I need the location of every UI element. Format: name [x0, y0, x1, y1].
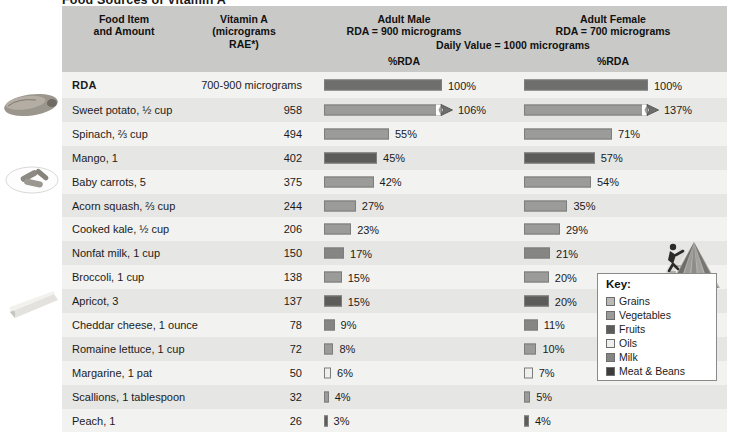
legend-item: Oils	[606, 337, 637, 349]
male-pct-rda-bar	[324, 80, 442, 91]
female-pct-rda-label: 29%	[566, 223, 588, 235]
male-bar-group: 42%	[324, 176, 514, 187]
male-pct-rda-bar	[324, 224, 351, 235]
female-pct-rda-label: 20%	[555, 295, 577, 307]
female-over-scale-arrow-icon	[642, 103, 660, 116]
vitamin-a-amount: 150	[186, 247, 302, 259]
female-pct-rda-label: 20%	[555, 271, 577, 283]
column-header-pct-rda-male: %RDA	[306, 55, 502, 67]
male-bar-group: 3%	[324, 415, 514, 426]
female-bar-group: 57%	[524, 152, 724, 163]
male-pct-rda-bar	[324, 272, 342, 283]
male-bar-group: 15%	[324, 296, 514, 307]
male-pct-rda-bar	[324, 391, 329, 402]
female-bar-group: 29%	[524, 224, 724, 235]
column-header-food-item: Food Item and Amount	[64, 13, 184, 38]
male-pct-rda-label: 17%	[350, 247, 372, 259]
table-row: Mango, 140245%57%	[62, 146, 727, 170]
female-pct-rda-bar	[524, 104, 648, 115]
table-row: Sweet potato, ½ cup958106%137%	[62, 98, 727, 122]
legend-title: Key:	[606, 278, 631, 290]
female-pct-rda-label: 137%	[664, 104, 692, 116]
female-pct-rda-label: 5%	[536, 391, 552, 403]
female-bar-group: 100%	[524, 80, 724, 91]
female-pct-rda-bar	[524, 128, 612, 139]
food-item-name: Broccoli, 1 cup	[72, 271, 144, 283]
column-header-pct-rda-female: %RDA	[506, 55, 720, 67]
male-bar-group: 106%	[324, 104, 514, 115]
food-item-name: Margarine, 1 pat	[72, 367, 152, 379]
legend-label: Meat & Beans	[619, 365, 685, 377]
sweet-potato-photo	[2, 88, 60, 122]
male-pct-rda-label: 3%	[334, 415, 350, 427]
male-pct-rda-label: 45%	[383, 152, 405, 164]
food-item-name: Mango, 1	[72, 152, 118, 164]
male-pct-rda-label: 55%	[395, 128, 417, 140]
male-bar-group: 27%	[324, 200, 514, 211]
male-pct-rda-label: 23%	[357, 223, 379, 235]
column-header-vitamin-a: Vitamin A (micrograms RAE*)	[186, 13, 302, 50]
male-pct-rda-bar	[324, 248, 344, 259]
male-bar-group: 23%	[324, 224, 514, 235]
food-item-name: Peach, 1	[72, 415, 115, 427]
male-bar-group: 17%	[324, 248, 514, 259]
legend-label: Vegetables	[619, 309, 671, 321]
male-bar-group: 6%	[324, 367, 514, 378]
female-pct-rda-label: 57%	[601, 152, 623, 164]
female-pct-rda-bar	[524, 343, 536, 354]
male-bar-group: 45%	[324, 152, 514, 163]
female-pct-rda-bar	[524, 415, 529, 426]
baby-carrots-photo	[4, 160, 60, 196]
legend-swatch-icon	[606, 353, 615, 362]
vitamin-a-amount: 958	[186, 104, 302, 116]
vitamin-a-amount: 26	[186, 415, 302, 427]
food-item-name: Apricot, 3	[72, 295, 118, 307]
female-bar-group: 4%	[524, 415, 724, 426]
food-item-name: RDA	[72, 79, 97, 91]
male-pct-rda-label: 42%	[380, 176, 402, 188]
table-row: Baby carrots, 537542%54%	[62, 170, 727, 194]
female-bar-group: 5%	[524, 391, 724, 402]
table-row: Acorn squash, ⅔ cup24427%35%	[62, 194, 727, 218]
male-pct-rda-bar	[324, 200, 356, 211]
food-item-name: Romaine lettuce, 1 cup	[72, 343, 185, 355]
male-pct-rda-label: 8%	[339, 343, 355, 355]
female-pct-rda-bar	[524, 200, 567, 211]
vitamin-a-amount: 137	[186, 295, 302, 307]
male-pct-rda-label: 15%	[348, 295, 370, 307]
male-pct-rda-bar	[324, 415, 328, 426]
table-row: Cooked kale, ½ cup20623%29%	[62, 217, 727, 241]
food-item-name: Nonfat milk, 1 cup	[72, 247, 160, 259]
male-pct-rda-bar	[324, 296, 342, 307]
column-header-adult-female: Adult Female RDA = 700 micrograms	[506, 13, 720, 38]
vitamin-a-amount: 700-900 micrograms	[124, 79, 302, 91]
male-bar-group: 4%	[324, 391, 514, 402]
male-pct-rda-label: 100%	[448, 79, 476, 91]
female-pct-rda-label: 71%	[618, 128, 640, 140]
vitamin-a-amount: 138	[186, 271, 302, 283]
vitamin-a-amount: 72	[186, 343, 302, 355]
female-pct-rda-bar	[524, 224, 560, 235]
female-pct-rda-bar	[524, 80, 648, 91]
male-pct-rda-bar	[324, 176, 374, 187]
food-item-name: Cooked kale, ½ cup	[72, 223, 169, 235]
vitamin-a-amount: 206	[186, 223, 302, 235]
male-over-scale-arrow-icon	[436, 103, 454, 116]
female-pct-rda-label: 100%	[654, 79, 682, 91]
female-bar-group: 71%	[524, 128, 724, 139]
female-pct-rda-label: 10%	[542, 343, 564, 355]
male-pct-rda-bar	[324, 319, 335, 330]
table-row: Scallions, 1 tablespoon324%5%	[62, 385, 727, 409]
male-pct-rda-bar	[324, 152, 377, 163]
male-pct-rda-bar	[324, 128, 389, 139]
legend-label: Fruits	[619, 323, 645, 335]
column-header-daily-value: Daily Value = 1000 micrograms	[306, 39, 720, 51]
table-row: Spinach, ⅔ cup49455%71%	[62, 122, 727, 146]
vitamin-a-amount: 402	[186, 152, 302, 164]
male-bar-group: 8%	[324, 343, 514, 354]
male-pct-rda-bar	[324, 343, 333, 354]
female-pct-rda-label: 21%	[556, 247, 578, 259]
female-pct-rda-label: 35%	[573, 200, 595, 212]
legend-item: Meat & Beans	[606, 365, 685, 377]
legend-item: Vegetables	[606, 309, 671, 321]
